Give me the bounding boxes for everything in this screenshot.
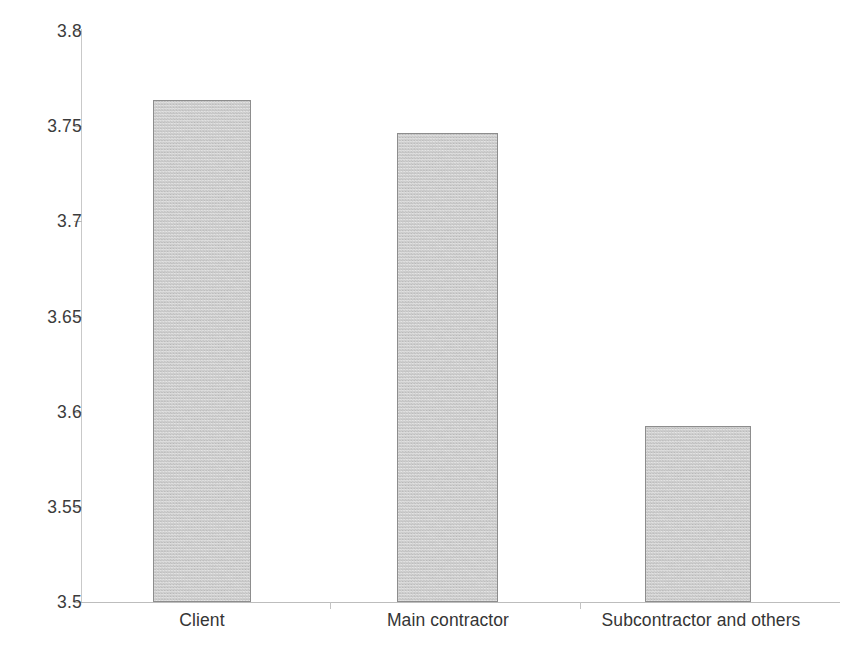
bar-chart: 3.8 3.75 3.7 3.65 3.6 3.55 3.5 Client Ma…: [0, 0, 843, 656]
y-tick-label: 3.8: [18, 22, 82, 40]
x-axis-label-subcontractor-and-others: Subcontractor and others: [576, 609, 826, 631]
y-tick-label: 3.55: [18, 498, 82, 516]
y-tick-label: 3.6: [18, 403, 82, 421]
x-axis-label-main-contractor: Main contractor: [358, 609, 538, 631]
x-axis-separator-2: [580, 602, 581, 609]
bar-subcontractor-and-others[interactable]: [645, 426, 751, 602]
y-tick-label: 3.7: [18, 212, 82, 230]
x-axis-line: [81, 602, 840, 603]
x-axis-separator-1: [330, 602, 331, 609]
bar-client[interactable]: [153, 100, 251, 602]
y-tick-label: 3.75: [18, 117, 82, 135]
y-tick-label: 3.5: [18, 593, 82, 611]
y-tick-label: 3.65: [18, 308, 82, 326]
x-axis-label-client: Client: [122, 609, 282, 631]
bar-main-contractor[interactable]: [397, 133, 498, 602]
